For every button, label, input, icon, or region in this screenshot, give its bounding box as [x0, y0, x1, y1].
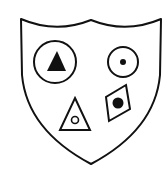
shield-figure [0, 0, 168, 183]
shield-outline [21, 19, 161, 164]
